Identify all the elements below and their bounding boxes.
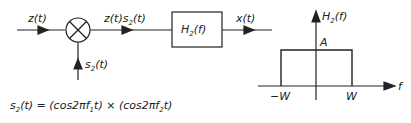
amplitude-label: A — [319, 36, 328, 49]
filter-label: H2(f) — [181, 23, 206, 38]
neg-cutoff-label: −W — [270, 90, 291, 103]
response-ylabel: H2(f) — [322, 10, 347, 25]
reference-arrow-icon — [74, 59, 82, 69]
input-arrow-icon — [38, 26, 48, 34]
equation: s2(t) = (cos2πf1t) × (cos2πf2t) — [10, 99, 172, 114]
output-label: x(t) — [235, 12, 255, 25]
pos-cutoff-label: W — [346, 90, 358, 103]
output-arrow-icon — [244, 26, 254, 34]
mixer-output-label: z(t)s2(t) — [103, 12, 146, 27]
response-xlabel: f — [398, 80, 404, 93]
x-axis-arrow-icon — [384, 82, 395, 90]
mixer-output-arrow-icon — [122, 26, 132, 34]
reference-label: s2(t) — [85, 58, 108, 73]
input-label: z(t) — [27, 12, 47, 25]
diagram-canvas: z(t) z(t)s2(t) s2(t) H2(f) x(t) H2(f) A … — [0, 0, 411, 123]
y-axis-arrow-icon — [312, 11, 320, 22]
